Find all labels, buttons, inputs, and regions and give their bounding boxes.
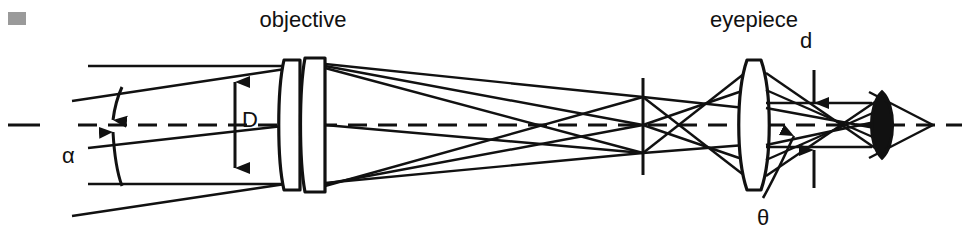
angle-alpha-arc-upper [113,87,122,120]
ray-oblique-lower [72,183,292,216]
label-d: d [800,28,812,53]
angle-alpha: α [62,87,122,186]
objective-element-front [279,60,300,190]
ray-axial-upper-converging [325,66,643,125]
ray-oblique-chief [88,125,292,148]
objective-element-rear [301,58,326,192]
incoming-ray-bundles [72,66,292,216]
label-theta: θ [757,205,769,230]
eyepiece-lens [739,60,770,190]
ray-oblique-chief-converging [325,125,643,153]
ray-diagram-canvas: D α d θ objective eyepiece [0,0,967,237]
scan-artifact-marker [8,12,26,25]
ray-oblique-upper [72,68,292,101]
ray-oblique-lower-converging [325,153,643,183]
label-alpha: α [62,143,75,168]
angle-alpha-arc-lower [113,132,122,186]
label-D: D [242,107,258,132]
label-objective: objective [260,7,347,32]
ray-oblique-upper-diverging [643,73,745,153]
eyepiece-lens-group [739,60,770,190]
label-eyepiece: eyepiece [710,7,798,32]
ray-oblique-mid-diverging [643,145,745,153]
ray-axial-lower-converging [325,125,643,184]
optical-diagram-figure: D α d θ objective eyepiece [0,0,967,237]
objective-lens-group [279,58,325,192]
ray-oblique2-lower-diverging [643,97,745,176]
